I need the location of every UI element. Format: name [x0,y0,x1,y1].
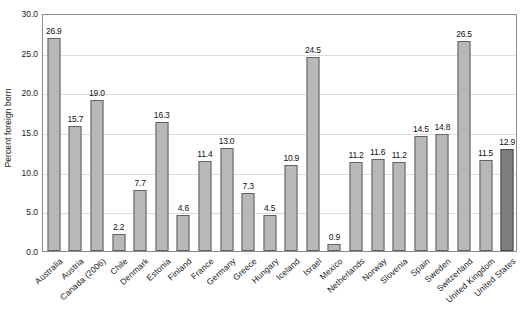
bar[interactable] [112,234,125,251]
bar-slot: 0.9 [324,15,346,251]
bar[interactable] [177,215,190,251]
bar-slot: 19.0 [86,15,108,251]
bar-value-label: 26.5 [456,29,472,39]
bar[interactable] [155,122,168,251]
bar-value-label: 10.9 [283,153,299,163]
bar-value-label: 11.4 [197,149,212,159]
bar-value-label: 11.5 [478,148,493,158]
bar-slot: 7.7 [129,15,151,251]
y-axis-tick: 25.0 [21,49,38,59]
bar[interactable] [479,160,492,251]
bar[interactable] [285,165,298,251]
bar-slot: 11.6 [367,15,389,251]
bar[interactable] [90,100,103,251]
bar-slot: 11.5 [475,15,497,251]
bar-chart: Percent foreign born 0.05.010.015.020.02… [0,0,532,316]
bar-value-label: 15.7 [67,114,83,124]
bar-value-label: 7.7 [135,178,146,188]
bar-value-label: 16.3 [154,110,170,120]
bar-slot: 11.2 [345,15,367,251]
bar-slot: 24.5 [302,15,324,251]
bar-slot: 4.6 [173,15,195,251]
y-axis-tick: 30.0 [21,9,38,19]
y-axis-tick: 20.0 [21,88,38,98]
bar-slot: 14.5 [410,15,432,251]
bar-slot: 7.3 [237,15,259,251]
y-axis-tick: 10.0 [21,168,38,178]
bar[interactable] [350,162,363,251]
bar[interactable] [198,161,211,251]
bar-value-label: 7.3 [242,181,253,191]
bar-slot: 12.9 [496,15,518,251]
bar-value-label: 26.9 [46,26,62,36]
bar[interactable] [458,41,471,251]
bar[interactable] [436,134,449,251]
bar[interactable] [501,149,514,251]
y-axis-tick: 5.0 [26,207,38,217]
bar-slot: 13.0 [216,15,238,251]
bar-value-label: 11.2 [392,150,407,160]
bar[interactable] [47,38,60,251]
bar-value-label: 4.6 [178,203,189,213]
bar[interactable] [242,193,255,251]
bar-slot: 15.7 [65,15,87,251]
bar[interactable] [306,57,319,251]
bar[interactable] [414,136,427,251]
bar[interactable] [328,244,341,251]
bar-slot: 11.2 [388,15,410,251]
x-axis-tick-labels: AustraliaAustriaCanada (2006)ChileDenmar… [42,252,517,316]
bar[interactable] [263,215,276,251]
x-axis-tick: Australia [33,256,65,286]
y-axis-title-label: Percent foreign born [3,88,13,167]
bar-value-label: 13.0 [219,136,235,146]
y-axis-tick-labels: 0.05.010.015.020.025.030.0 [14,0,40,256]
bar-value-label: 11.2 [348,150,363,160]
bar[interactable] [220,148,233,251]
bar-slot: 26.9 [43,15,65,251]
bar-slot: 10.9 [281,15,303,251]
plot-area: 26.915.719.02.27.716.34.611.413.07.34.51… [42,14,517,252]
bar-value-label: 14.5 [413,124,429,134]
bars-layer: 26.915.719.02.27.716.34.611.413.07.34.51… [43,15,516,251]
bar-value-label: 4.5 [264,203,275,213]
bar[interactable] [134,190,147,251]
y-axis-tick: 15.0 [21,128,38,138]
bar-value-label: 24.5 [305,45,321,55]
bar-slot: 16.3 [151,15,173,251]
bar-value-label: 11.6 [370,147,385,157]
bar-slot: 14.8 [432,15,454,251]
bar[interactable] [393,162,406,251]
bar-slot: 4.5 [259,15,281,251]
bar-value-label: 19.0 [89,88,105,98]
bar-slot: 26.5 [453,15,475,251]
y-axis-tick: 0.0 [26,247,38,257]
bar-value-label: 0.9 [329,232,340,242]
bar[interactable] [371,159,384,251]
bar-slot: 2.2 [108,15,130,251]
bar-value-label: 12.9 [499,137,515,147]
bar-slot: 11.4 [194,15,216,251]
bar[interactable] [69,126,82,251]
bar-value-label: 14.8 [435,122,451,132]
bar-value-label: 2.2 [113,222,124,232]
